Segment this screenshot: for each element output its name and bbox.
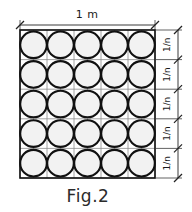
circle <box>101 61 128 88</box>
circle <box>20 32 47 59</box>
circle <box>128 120 155 147</box>
circle <box>128 32 155 59</box>
unit-square-group <box>20 30 155 178</box>
circle <box>20 120 47 147</box>
circle <box>20 91 47 118</box>
figure-caption: Fig.2 <box>67 186 110 206</box>
side-dimension-group: 1/n 1/n 1/n 1/n 1/n <box>155 26 182 182</box>
circle <box>101 32 128 59</box>
circle <box>74 120 101 147</box>
side-dimension-label-1: 1/n <box>162 38 172 52</box>
top-dimension-label: 1 m <box>76 8 99 21</box>
circle <box>101 120 128 147</box>
side-dimension-label-4: 1/n <box>162 126 172 140</box>
side-dimension-label-5: 1/n <box>162 156 172 170</box>
figure-drawing: 1 m <box>0 0 192 212</box>
circle <box>101 150 128 177</box>
circle <box>74 61 101 88</box>
circle <box>47 61 74 88</box>
circle <box>20 61 47 88</box>
circle-grid <box>20 32 155 177</box>
circle <box>101 91 128 118</box>
circle <box>128 91 155 118</box>
circle <box>74 32 101 59</box>
circle <box>74 150 101 177</box>
top-dimension-group: 1 m <box>16 8 159 30</box>
circle <box>128 150 155 177</box>
circle <box>47 32 74 59</box>
circle <box>20 150 47 177</box>
circle <box>128 61 155 88</box>
side-dimension-label-3: 1/n <box>162 97 172 111</box>
circle <box>47 91 74 118</box>
circle <box>74 91 101 118</box>
circle <box>47 150 74 177</box>
figure-container: 1 m <box>0 0 192 212</box>
circle <box>47 120 74 147</box>
side-dimension-label-2: 1/n <box>162 67 172 81</box>
